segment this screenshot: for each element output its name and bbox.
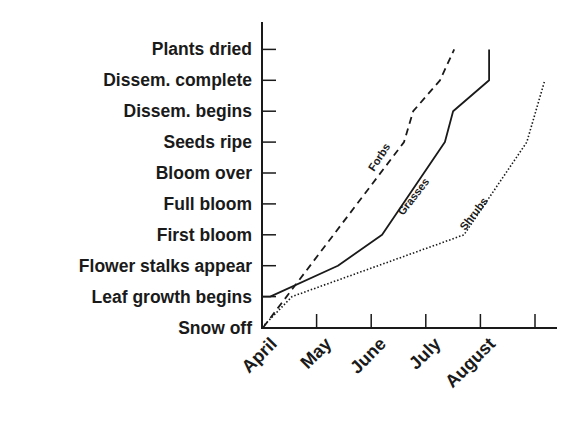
y-tick-label: Full bloom [164,194,252,214]
y-tick-label: Dissem. complete [103,70,252,90]
x-tick-label: April [238,334,281,377]
x-tick-label: July [405,334,445,374]
x-tick-label: June [346,334,390,378]
y-tick-label: Leaf growth begins [92,287,253,307]
axes [261,22,557,328]
y-tick-label: Dissem. begins [124,101,253,121]
y-tick-label: Flower stalks appear [79,256,252,276]
line-grasses [262,49,489,327]
phenology-chart: Snow offLeaf growth beginsFlower stalks … [0,0,582,422]
x-ticks: AprilMayJuneJulyAugust [238,314,535,392]
x-tick-label: August [441,334,499,392]
y-tick-label: First bloom [157,225,252,245]
y-tick-label: Bloom over [156,163,252,183]
x-tick-label: May [297,334,336,373]
y-ticks: Snow offLeaf growth beginsFlower stalks … [79,39,276,337]
series-lines [262,49,545,327]
y-tick-label: Seeds ripe [163,132,252,152]
y-tick-label: Snow off [178,318,252,338]
series-label-shrubs: Shrubs [457,195,490,232]
series-label-grasses: Grasses [395,176,431,218]
series-labels: Forbs Grasses Shrubs [366,141,490,232]
series-label-forbs: Forbs [366,141,393,173]
y-tick-label: Plants dried [152,39,252,59]
